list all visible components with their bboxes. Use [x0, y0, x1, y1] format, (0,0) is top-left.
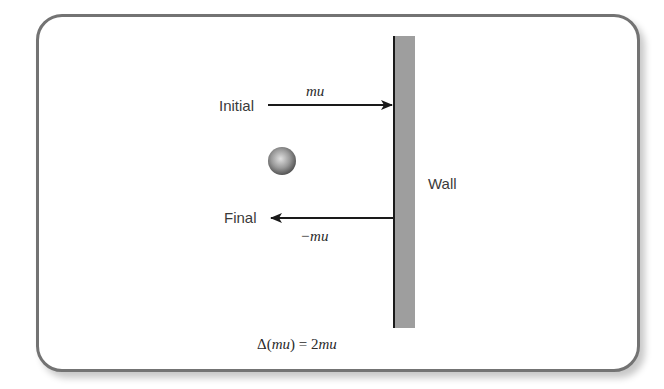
- equation-mu-result: mu: [318, 336, 336, 352]
- momentum-change-equation: Δ(mu) = 2mu: [257, 336, 337, 353]
- equation-mu: mu: [272, 336, 290, 352]
- final-label: Final: [224, 209, 257, 226]
- initial-label: Initial: [219, 97, 254, 114]
- equation-delta: Δ(: [257, 336, 272, 353]
- wall-body: [393, 36, 415, 328]
- wall-edge: [393, 36, 395, 328]
- momentum-diagram: Initial mu Final −mu Wall Δ(mu) = 2mu: [0, 0, 664, 389]
- equation-equals: ) =: [290, 336, 311, 353]
- initial-momentum-label: mu: [306, 83, 324, 99]
- final-momentum-label: −mu: [300, 228, 328, 244]
- ball-icon: [268, 147, 296, 175]
- equation-two: 2: [311, 336, 319, 352]
- wall: [393, 36, 415, 328]
- wall-label: Wall: [428, 175, 457, 192]
